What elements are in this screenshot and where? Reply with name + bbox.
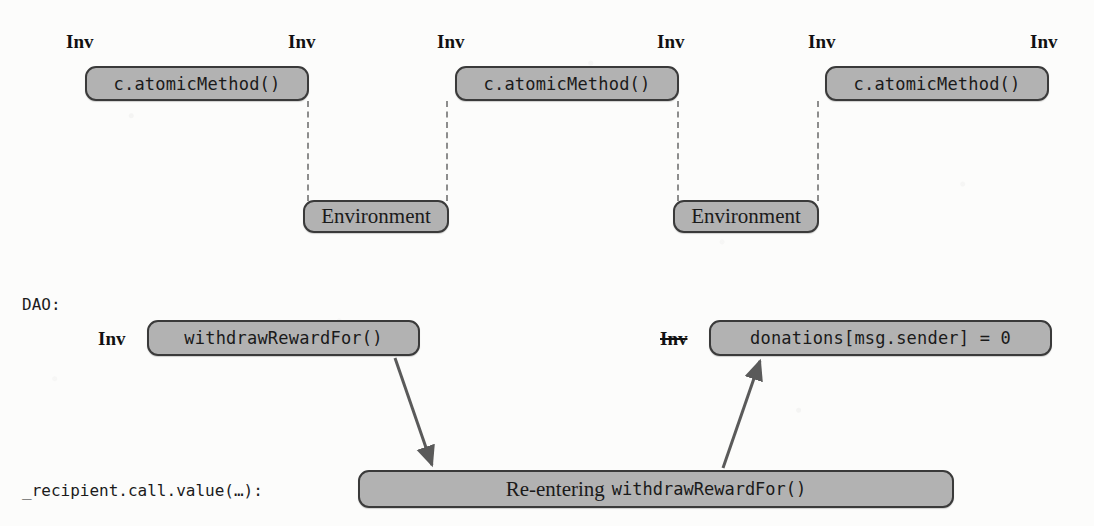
node-withdraw-reward-for[interactable]: withdrawRewardFor() bbox=[147, 320, 420, 356]
diagram-canvas: Inv Inv Inv Inv Inv Inv c.atomicMethod()… bbox=[0, 0, 1094, 526]
dashed-connector-3 bbox=[677, 101, 679, 201]
inv-label-3: Inv bbox=[437, 31, 464, 53]
re-entering-prefix: Re-entering bbox=[506, 477, 605, 502]
arrow-withdraw-to-reentering bbox=[395, 358, 432, 465]
node-environment-1[interactable]: Environment bbox=[303, 200, 449, 233]
re-entering-code: withdrawRewardFor() bbox=[612, 479, 806, 499]
dashed-connector-1 bbox=[307, 101, 309, 201]
inv-label-donations-struck: Inv bbox=[660, 328, 687, 350]
node-donations-reset[interactable]: donations[msg.sender] = 0 bbox=[709, 320, 1052, 356]
arrow-reentering-to-donations bbox=[723, 361, 760, 468]
node-atomic-method-2[interactable]: c.atomicMethod() bbox=[455, 66, 679, 101]
inv-label-5: Inv bbox=[808, 31, 835, 53]
inv-label-6: Inv bbox=[1030, 31, 1057, 53]
inv-label-1: Inv bbox=[66, 31, 93, 53]
node-re-entering-withdraw[interactable]: Re-entering withdrawRewardFor() bbox=[358, 470, 954, 508]
inv-label-4: Inv bbox=[657, 31, 684, 53]
inv-label-withdraw: Inv bbox=[98, 328, 125, 350]
recipient-call-caption: _recipient.call.value(…): bbox=[22, 481, 263, 500]
dashed-connector-4 bbox=[817, 101, 819, 201]
dashed-connector-2 bbox=[446, 101, 448, 201]
dao-heading: DAO: bbox=[22, 295, 61, 314]
node-atomic-method-3[interactable]: c.atomicMethod() bbox=[825, 66, 1049, 101]
node-atomic-method-1[interactable]: c.atomicMethod() bbox=[85, 66, 309, 101]
inv-label-2: Inv bbox=[288, 31, 315, 53]
node-environment-2[interactable]: Environment bbox=[673, 200, 819, 233]
